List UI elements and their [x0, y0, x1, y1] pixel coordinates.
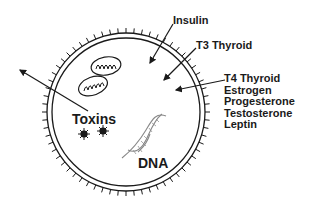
- toxin-particle-icon: [78, 128, 90, 140]
- t3-thyroid-label: T3 Thyroid: [196, 40, 252, 51]
- progesterone-label: Progesterone: [224, 96, 295, 108]
- toxins-label: Toxins: [72, 112, 116, 127]
- toxins-exit-arrow: [20, 70, 88, 111]
- dna-label: DNA: [138, 156, 168, 171]
- cell-membrane-outer: [47, 33, 205, 191]
- t3-arrow: [164, 48, 196, 80]
- insulin-label: Insulin: [173, 15, 208, 26]
- receptor-ticks: [42, 28, 210, 196]
- leptin-label: Leptin: [224, 119, 295, 131]
- mitochondrion-icon: [76, 72, 110, 99]
- dna-helix-icon: [122, 114, 166, 158]
- t4-thyroid-label: T4 Thyroid: [224, 73, 295, 85]
- hormone-group-labels: T4 Thyroid Estrogen Progesterone Testost…: [224, 73, 295, 131]
- mitochondrion-icon: [90, 55, 123, 78]
